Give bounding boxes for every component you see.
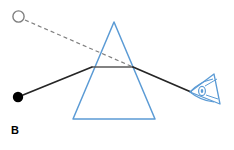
observer-eye-icon (190, 74, 220, 104)
optics-diagram-canvas (0, 0, 234, 150)
optics-diagram-panel: B (0, 0, 234, 150)
object-point (13, 92, 23, 102)
incident-ray (23, 67, 92, 95)
virtual-image-point (13, 11, 24, 22)
eye-pupil-core (201, 89, 204, 93)
eye-ray-line-2 (206, 95, 218, 99)
panel-label: B (11, 124, 19, 136)
